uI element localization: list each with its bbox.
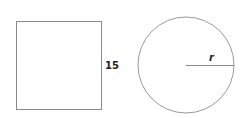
diagram-canvas	[0, 0, 244, 118]
square-side-label: 15	[105, 60, 119, 71]
circle-radius-label: r	[209, 52, 214, 63]
square-shape	[17, 22, 102, 110]
